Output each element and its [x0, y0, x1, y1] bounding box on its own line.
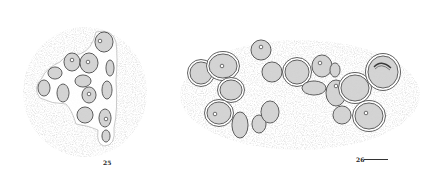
cell [261, 101, 279, 123]
cell [302, 81, 326, 95]
cell [251, 40, 271, 60]
cell [312, 55, 332, 77]
cell [82, 87, 96, 103]
cell [262, 62, 282, 82]
figure-26 [180, 40, 420, 150]
scale-bar [364, 159, 388, 160]
cell [232, 112, 248, 138]
cell [38, 80, 50, 96]
nucleus [259, 45, 263, 49]
figure-25 [23, 27, 147, 157]
figure-label-25: 25 [103, 159, 111, 166]
cell [218, 78, 245, 103]
cell [77, 107, 93, 123]
cell [80, 53, 98, 73]
cell [353, 101, 386, 132]
cell [106, 60, 114, 76]
nucleus [98, 39, 102, 43]
nucleus [213, 112, 217, 116]
nucleus [104, 117, 108, 121]
cell [205, 100, 234, 127]
nucleus [70, 58, 74, 62]
cell [95, 32, 113, 52]
nucleus [334, 84, 338, 88]
cell [48, 67, 62, 79]
cell [75, 75, 91, 87]
nucleus [318, 61, 322, 65]
cell [333, 106, 351, 124]
nucleus [220, 64, 224, 68]
cell [57, 84, 69, 102]
cell [102, 81, 112, 99]
nucleus [364, 111, 368, 115]
cell [366, 54, 401, 91]
cell [99, 109, 111, 127]
nucleus [87, 92, 91, 96]
cell [64, 53, 80, 71]
figure-plate [0, 0, 430, 179]
cell [330, 63, 340, 77]
cell [207, 52, 240, 81]
nucleus [86, 60, 90, 64]
cell [102, 130, 110, 142]
